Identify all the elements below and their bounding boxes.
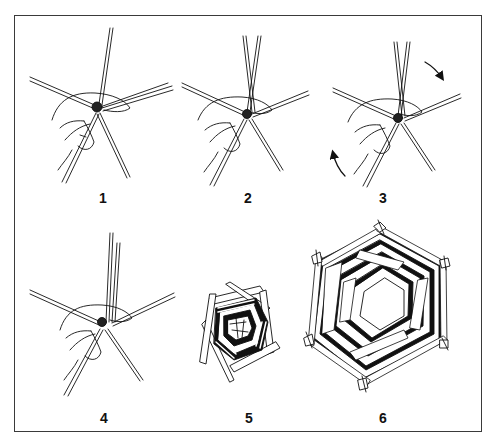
hand-icon <box>348 99 422 174</box>
step-label-4: 4 <box>100 411 108 425</box>
step-1-figure <box>30 28 173 183</box>
step-label-6: 6 <box>379 411 387 425</box>
step-4-figure <box>30 233 175 396</box>
step-3-figure <box>333 42 461 187</box>
step-5-figure <box>200 282 280 382</box>
step-label-2: 2 <box>244 191 252 205</box>
step-label-5: 5 <box>245 411 253 425</box>
rotate-arrow-icon <box>425 62 442 78</box>
step-label-3: 3 <box>379 191 387 205</box>
rotate-arrow-icon <box>333 153 345 176</box>
step-6-figure <box>304 220 450 392</box>
step-label-1: 1 <box>99 191 107 205</box>
weaving-illustration <box>0 0 490 439</box>
knot-icon <box>440 338 448 350</box>
step-2-figure <box>182 36 309 186</box>
